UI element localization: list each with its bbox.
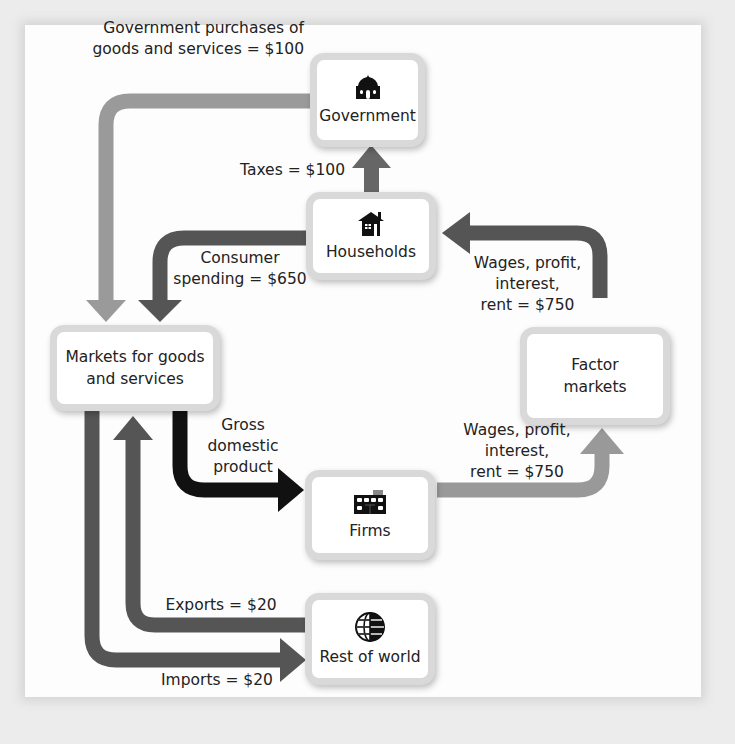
government-building-icon — [353, 73, 383, 103]
globe-icon — [353, 610, 387, 644]
node-factor-markets-label-2: markets — [563, 376, 626, 398]
node-markets-goods-label-1: Markets for goods — [65, 346, 204, 368]
label-gdp: Gross domestic product — [198, 415, 288, 478]
arrow-taxes — [352, 145, 391, 192]
node-households: Households — [306, 192, 436, 280]
node-households-label: Households — [326, 241, 416, 263]
node-rest-of-world: Rest of world — [305, 593, 435, 685]
node-rest-of-world-label: Rest of world — [319, 646, 420, 668]
node-markets-goods-label-2: and services — [86, 368, 184, 390]
node-factor-markets: Factor markets — [520, 327, 670, 425]
label-firms-to-factor: Wages, profit, interest, rent = $750 — [452, 420, 582, 483]
node-firms-label: Firms — [349, 520, 390, 542]
label-exports: Exports = $20 — [156, 595, 286, 616]
label-taxes: Taxes = $100 — [225, 160, 345, 181]
house-icon — [356, 209, 386, 239]
label-government-purchases: Government purchases of goods and servic… — [72, 18, 304, 60]
node-firms: Firms — [305, 470, 435, 560]
node-factor-markets-label-1: Factor — [571, 354, 618, 376]
factory-building-icon — [351, 488, 389, 518]
label-factor-income-to-households: Wages, profit, interest, rent = $750 — [465, 253, 590, 316]
node-government: Government — [310, 53, 425, 147]
label-consumer-spending: Consumer spending = $650 — [170, 248, 310, 290]
node-markets-goods-services: Markets for goods and services — [50, 325, 220, 411]
node-government-label: Government — [319, 105, 416, 127]
label-imports: Imports = $20 — [152, 670, 282, 691]
